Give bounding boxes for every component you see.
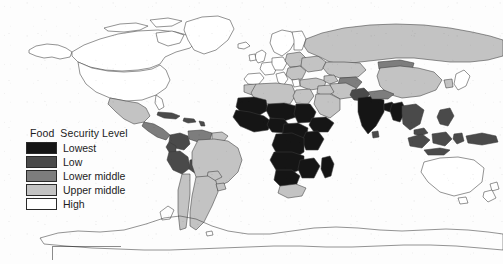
legend-item-upper-middle: Upper middle	[26, 183, 128, 197]
legend-label-lowest: Lowest	[63, 142, 96, 154]
region-new-zealand-n	[490, 182, 499, 191]
region-falklands	[206, 231, 213, 236]
legend-label-upper-middle: Upper middle	[63, 184, 125, 196]
legend-title: Food Security Level	[30, 127, 128, 139]
legend-swatch-low	[26, 156, 57, 169]
legend-swatch-lowest	[26, 142, 57, 155]
legend-swatch-lower-middle	[26, 170, 57, 183]
legend-label-low: Low	[63, 156, 82, 168]
map-legend: Food Security Level Lowest Low Lower mid…	[26, 127, 128, 211]
legend-label-lower-middle: Lower middle	[63, 170, 125, 182]
region-tasmania	[458, 197, 468, 204]
region-ireland	[249, 54, 256, 61]
legend-item-lower-middle: Lower middle	[26, 169, 128, 183]
legend-item-high: High	[26, 197, 128, 211]
region-sri-lanka	[372, 131, 379, 138]
legend-item-lowest: Lowest	[26, 141, 128, 155]
legend-swatch-upper-middle	[26, 184, 57, 197]
legend-swatch-high	[26, 198, 57, 211]
legend-item-low: Low	[26, 155, 128, 169]
map-frame-tick	[52, 246, 121, 260]
map-screenshot: .ct{stroke:#3a3a3a;stroke-width:.55;stro…	[0, 0, 503, 264]
legend-label-high: High	[63, 198, 85, 210]
